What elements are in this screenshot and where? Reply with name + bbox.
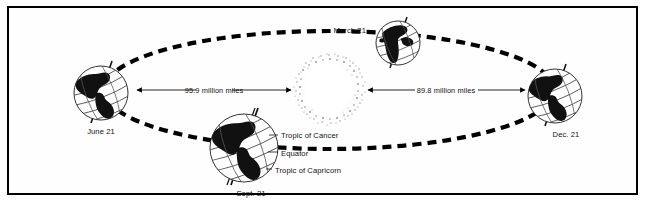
- earth-june-21: June 21: [68, 61, 137, 136]
- earth-label-september-21: Sept. 21: [236, 189, 265, 198]
- diagram-canvas: 95.9 million miles 89.8 million miles: [0, 0, 646, 203]
- sun: [293, 53, 365, 125]
- earth-september-21: Sept. 21: [203, 108, 287, 198]
- earth-label-march-21: March 21: [334, 26, 366, 35]
- left-distance-label: 95.9 million miles: [185, 86, 244, 95]
- equator-label: Equator: [281, 149, 309, 158]
- orbit-diagram: 95.9 million miles 89.8 million miles: [0, 0, 646, 203]
- earth-label-june-21: June 21: [87, 127, 115, 136]
- earth-december-21: Dec. 21: [522, 64, 591, 139]
- right-distance-label: 89.8 million miles: [417, 86, 476, 95]
- earth-label-december-21: Dec. 21: [553, 130, 580, 139]
- tropic-of-cancer-label: Tropic of Cancer: [281, 131, 339, 140]
- earth-march-21: March 21: [334, 17, 427, 69]
- right-distance-measure: 89.8 million miles: [368, 86, 525, 95]
- tropic-of-capricorn-label: Tropic of Capricorn: [275, 166, 341, 175]
- left-distance-measure: 95.9 million miles: [137, 86, 291, 95]
